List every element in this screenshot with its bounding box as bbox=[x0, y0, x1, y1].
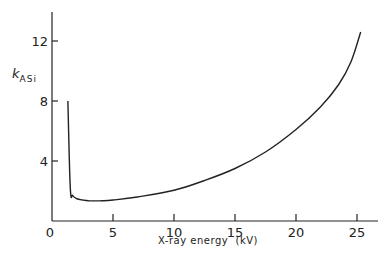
x-tick-label: 25 bbox=[349, 225, 366, 240]
y-tick-label: 12 bbox=[31, 34, 48, 49]
y-axis-label: kASi bbox=[12, 66, 37, 84]
x-tick-label: 5 bbox=[109, 225, 117, 240]
axes bbox=[52, 12, 378, 221]
y-axis-label-subscript: ASi bbox=[20, 74, 37, 84]
kasi-curve bbox=[68, 32, 361, 201]
chart: 4812 0510152025 kASi X-ray energy (kV) bbox=[0, 0, 390, 259]
y-tick-label: 8 bbox=[40, 94, 48, 109]
x-tick-label: 20 bbox=[288, 225, 305, 240]
y-tick-label: 4 bbox=[40, 154, 48, 169]
x-tick-label: 0 bbox=[46, 225, 54, 240]
x-axis-label: X-ray energy (kV) bbox=[158, 235, 258, 246]
y-ticks: 4812 bbox=[31, 34, 58, 169]
